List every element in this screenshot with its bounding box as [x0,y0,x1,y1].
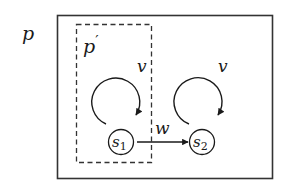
state-s1: s1 [109,130,134,155]
self-loop-s1-label: v [137,56,147,76]
transition-s1-s2-label: w [155,118,170,138]
prime-mark: ′ [95,32,99,50]
outer-process-label: p [22,22,34,44]
self-loop-s2 [174,78,222,124]
automaton-diagram: p p′ v v s1 s2 w [0,0,288,189]
state-s2: s2 [190,130,215,155]
self-loop-s1 [92,78,140,124]
inner-process-label: p′ [83,32,99,57]
self-loop-s2-label: v [218,56,228,76]
